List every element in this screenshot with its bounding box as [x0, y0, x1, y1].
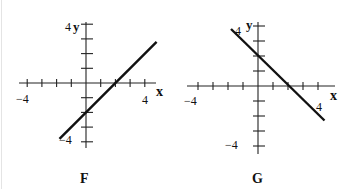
y-tick-neg4-g: −4 [225, 138, 238, 152]
x-tick-4-f: 4 [142, 93, 148, 107]
x-axis-label-g: x [330, 88, 337, 103]
x-tick-neg4-f: −4 [16, 92, 29, 106]
y-tick-4-f: 4 [65, 20, 71, 34]
graph-label-f: F [80, 171, 89, 186]
x-axis-label-f: x [156, 84, 163, 99]
y-tick-neg4-f: −4 [59, 133, 72, 147]
line-g [231, 29, 325, 121]
graph-f [19, 22, 157, 148]
y-axis-label-f: y [73, 19, 80, 34]
line-f [60, 42, 157, 139]
y-axis-label-g: y [246, 17, 253, 32]
x-tick-4-g: 4 [316, 100, 322, 114]
graph-g [187, 22, 335, 154]
x-tick-neg4-g: −4 [184, 94, 197, 108]
y-tick-4-g: 4 [235, 24, 241, 38]
graph-label-g: G [252, 171, 263, 186]
